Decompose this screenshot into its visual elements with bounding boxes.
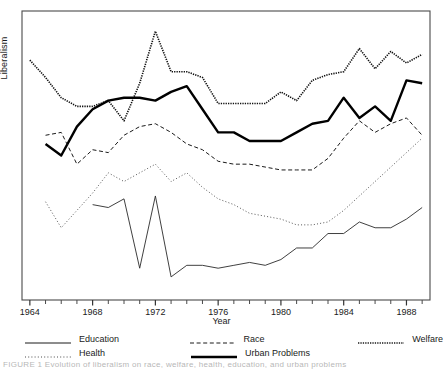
x-tick-label-1980: 1980	[271, 307, 291, 317]
legend-item-welfare: Welfare	[357, 334, 443, 344]
legend-row-1: Education Race Welfare	[0, 332, 443, 346]
y-axis-label: Liberalism	[0, 0, 9, 118]
education-line-swatch	[24, 334, 72, 344]
race-line-swatch	[189, 334, 237, 344]
legend-label-race: Race	[244, 334, 265, 344]
x-tick-label-1976: 1976	[208, 307, 228, 317]
x-tick-label-1984: 1984	[334, 307, 354, 317]
figure-caption: FIGURE 1 Evolution of liberalism on race…	[3, 360, 440, 370]
welfare-line-swatch	[357, 334, 405, 344]
series-line-race	[46, 118, 423, 170]
x-tick-label-1988: 1988	[396, 307, 416, 317]
series-line-urban-problems	[46, 80, 423, 155]
chart-legend: Education Race Welfare Health	[0, 332, 443, 360]
health-line-swatch	[24, 348, 72, 358]
legend-item-health: Health	[24, 348, 190, 358]
legend-row-2: Health Urban Problems	[0, 346, 443, 360]
figure-container: Liberalism Year 196419681972197619801984…	[0, 0, 443, 370]
legend-item-urban-problems: Urban Problems	[190, 348, 360, 358]
series-line-welfare	[30, 31, 422, 121]
x-tick-label-1968: 1968	[83, 307, 103, 317]
x-tick-label-1964: 1964	[20, 307, 40, 317]
urban-problems-line-swatch	[190, 348, 238, 358]
series-line-education	[93, 196, 423, 277]
x-axis-label: Year	[0, 316, 443, 326]
legend-label-health: Health	[79, 348, 105, 358]
legend-item-race: Race	[189, 334, 358, 344]
legend-item-education: Education	[24, 334, 189, 344]
plot-frame	[22, 11, 430, 300]
legend-label-urban-problems: Urban Problems	[245, 348, 310, 358]
legend-label-education: Education	[79, 334, 119, 344]
legend-label-welfare: Welfare	[412, 334, 443, 344]
x-tick-label-1972: 1972	[145, 307, 165, 317]
